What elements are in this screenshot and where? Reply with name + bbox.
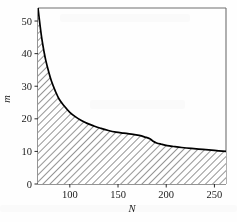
y-tick-label: 10 [22, 146, 33, 157]
x-tick-label: 100 [62, 189, 78, 200]
y-tick-label: 20 [22, 113, 33, 124]
y-tick-label: 30 [22, 81, 33, 92]
y-tick-label: 50 [22, 16, 33, 27]
y-axis: 01020304050 [22, 16, 39, 190]
x-tick-label: 150 [110, 189, 126, 200]
y-axis-title: m [1, 95, 12, 103]
x-axis-title: N [127, 203, 136, 214]
chart-canvas: 01020304050 100150200250 m N [0, 0, 237, 222]
y-tick-label: 40 [22, 48, 33, 59]
x-tick-label: 200 [158, 189, 174, 200]
y-tick-label: 0 [27, 179, 32, 190]
x-tick-label: 250 [207, 189, 223, 200]
figure-container: 01020304050 100150200250 m N [0, 0, 237, 222]
data-area-fill [38, 8, 226, 184]
x-axis: 100150200250 [62, 184, 222, 200]
